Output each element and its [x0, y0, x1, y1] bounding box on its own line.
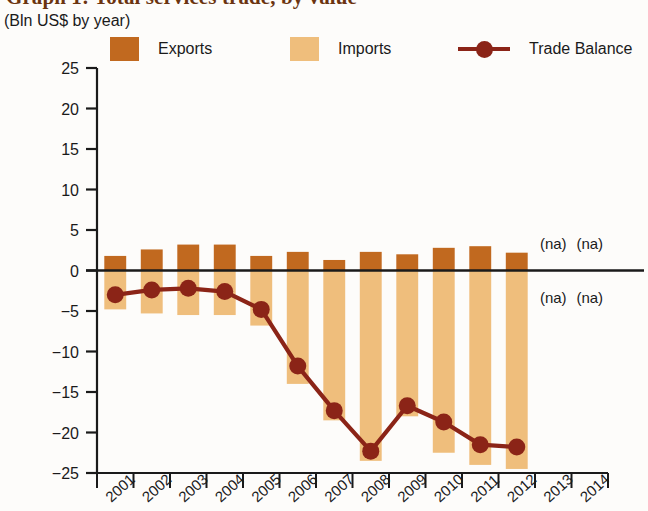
y-axis-tick-label: 0: [70, 263, 79, 280]
x-axis-tick-label: 2011: [467, 471, 502, 505]
export-bar: [104, 256, 126, 271]
trade-balance-point: [253, 301, 270, 318]
export-bar: [360, 252, 382, 271]
exports-bar-group: [104, 245, 527, 271]
trade-balance-point: [180, 280, 197, 297]
trade-balance-point: [107, 286, 124, 303]
trade-balance-point: [508, 439, 525, 456]
trade-balance-point: [472, 436, 489, 453]
imports-bar-group: [104, 271, 527, 469]
export-bar: [506, 253, 528, 271]
trade-balance-point: [399, 397, 416, 414]
y-axis-tick-label: −10: [52, 344, 79, 361]
chart-plot-area: 2520151050−5−10−15−20−25 200120022003200…: [0, 0, 648, 511]
trade-balance-point: [326, 402, 343, 419]
y-axis-tick-label: 20: [61, 101, 79, 118]
y-axis-tick-label: −15: [52, 384, 79, 401]
export-bar: [214, 245, 236, 271]
export-bar: [433, 248, 455, 271]
y-axis-tick-label: 10: [61, 182, 79, 199]
y-axis-tick-label: 15: [61, 141, 79, 158]
x-axis: 2001200220032004200520062007200820092010…: [97, 470, 613, 505]
y-axis-tick-label: −20: [52, 425, 79, 442]
export-bar: [250, 256, 272, 271]
trade-balance-point: [289, 358, 306, 375]
y-axis-tick-label: −25: [52, 465, 79, 482]
export-bar: [396, 254, 418, 270]
import-bar: [323, 271, 345, 421]
y-axis-tick-label: −5: [61, 303, 79, 320]
export-bar: [469, 246, 491, 270]
trade-balance-point: [362, 443, 379, 460]
trade-balance-point: [143, 281, 160, 298]
y-axis-tick-label: 5: [70, 222, 79, 239]
export-bar: [323, 260, 345, 271]
export-bar: [177, 245, 199, 271]
import-bar: [396, 271, 418, 417]
chart-canvas: 2520151050−5−10−15−20−25 200120022003200…: [0, 0, 648, 511]
trade-balance-point: [216, 283, 233, 300]
trade-balance-point: [435, 413, 452, 430]
na-label: (na): [540, 235, 567, 252]
na-label: (na): [576, 235, 603, 252]
export-bar: [141, 249, 163, 270]
na-label: (na): [540, 289, 567, 306]
na-label: (na): [576, 289, 603, 306]
y-axis-tick-label: 25: [61, 60, 79, 77]
trade-balance-line: [107, 280, 526, 460]
import-bar: [360, 271, 382, 461]
import-bar: [469, 271, 491, 465]
export-bar: [287, 252, 309, 271]
